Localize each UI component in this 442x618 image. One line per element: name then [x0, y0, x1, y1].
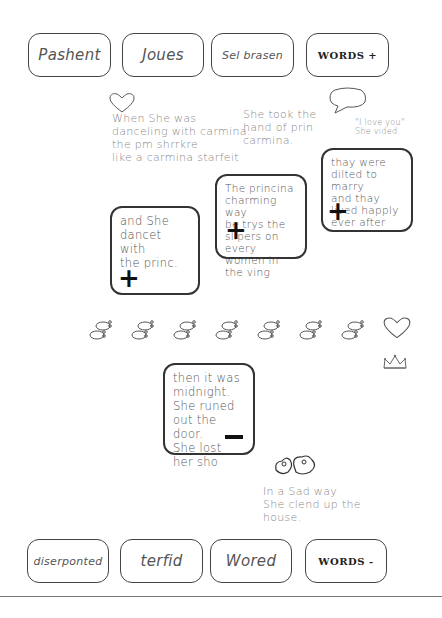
add-icon[interactable]: + [225, 217, 247, 243]
words-minus-button[interactable]: WORDS - [305, 539, 387, 583]
word-label: Joues [142, 46, 184, 64]
footprints-icon [340, 318, 366, 344]
word-label: diserponted [33, 555, 102, 568]
remove-icon[interactable] [225, 435, 243, 439]
footprints-icon [130, 318, 156, 344]
words-plus-button[interactable]: WORDS + [306, 33, 389, 77]
footprints-icon [256, 318, 282, 344]
crown-icon [382, 353, 408, 371]
divider [0, 596, 442, 597]
add-icon[interactable]: + [118, 265, 140, 291]
card-text: then it was midnight. She runed out the … [173, 371, 245, 469]
story-card-4[interactable]: then it was midnight. She runed out the … [163, 363, 255, 455]
story-card-1[interactable]: and She dancet with the princ. + [110, 206, 200, 295]
word-label: Wored [226, 552, 276, 570]
mice-drawing-icon [272, 452, 322, 478]
story-text-1: When She was danceling with carmina. the… [112, 112, 252, 164]
word-button-4[interactable]: diserponted [27, 539, 109, 583]
story-card-3[interactable]: thay were dilted to marry and thay lived… [321, 148, 413, 232]
card-text: and She dancet with the princ. [120, 214, 190, 270]
story-text-3: "I love you" She vided. [355, 118, 435, 136]
heart-icon [382, 316, 412, 340]
word-label: Sel brasen [222, 49, 283, 62]
footprints-icon [214, 318, 240, 344]
story-text-2: She took the hand of prin carmina. [243, 108, 343, 147]
words-plus-label: WORDS + [318, 50, 378, 61]
word-button-1[interactable]: Pashent [28, 33, 111, 77]
footprints-icon [88, 318, 114, 344]
word-label: Pashent [38, 46, 100, 64]
word-button-6[interactable]: Wored [210, 539, 292, 583]
word-button-3[interactable]: Sel brasen [211, 33, 294, 77]
footprints-icon [298, 318, 324, 344]
story-card-2[interactable]: The princina charming way be trys the sl… [215, 174, 307, 259]
words-minus-label: WORDS - [318, 556, 373, 567]
heart-icon [108, 92, 136, 114]
footprints-row [88, 318, 368, 348]
story-text-4: In a Sad way She clend up the house. [263, 485, 373, 524]
word-button-2[interactable]: Joues [122, 33, 204, 77]
word-button-5[interactable]: terfid [120, 539, 203, 583]
word-label: terfid [140, 552, 182, 570]
add-icon[interactable]: + [327, 198, 349, 224]
footprints-icon [172, 318, 198, 344]
